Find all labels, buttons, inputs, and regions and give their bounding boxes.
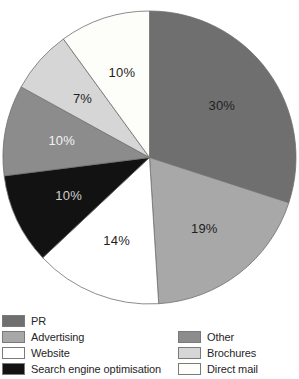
legend-label-direct-mail: Direct mail	[207, 363, 258, 375]
pie-slice-datalabel-search-engine-optimisation: 10%	[55, 188, 82, 203]
legend-item-advertising: Advertising	[2, 331, 161, 343]
pie-slice-datalabel-website: 14%	[103, 233, 130, 248]
legend-swatch-advertising	[2, 331, 25, 343]
legend-swatch-direct-mail	[178, 363, 201, 375]
legend-label-advertising: Advertising	[31, 331, 84, 343]
legend-label-brochures: Brochures	[207, 347, 256, 359]
pie-slice-datalabel-other: 10%	[48, 133, 75, 148]
pie-slice-datalabel-advertising: 19%	[191, 221, 218, 236]
legend-label-website: Website	[31, 347, 70, 359]
chart-canvas: 30%19%14%10%10%7%10% PRAdvertisingWebsit…	[0, 0, 299, 379]
legend-swatch-website	[2, 347, 25, 359]
legend-label-other: Other	[207, 331, 234, 343]
legend-column-right: OtherBrochuresDirect mail	[178, 331, 258, 379]
pie-slice-datalabel-brochures: 7%	[73, 91, 92, 106]
legend-item-other: Other	[178, 331, 258, 343]
legend-item-search-engine-optimisation: Search engine optimisation	[2, 363, 161, 375]
legend-column-left: PRAdvertisingWebsiteSearch engine optimi…	[2, 315, 161, 379]
pie-slice-datalabel-pr: 30%	[208, 98, 235, 113]
pie-slice-datalabel-direct-mail: 10%	[109, 65, 136, 80]
legend-item-direct-mail: Direct mail	[178, 363, 258, 375]
legend-item-brochures: Brochures	[178, 347, 258, 359]
legend-label-search-engine-optimisation: Search engine optimisation	[31, 363, 161, 375]
legend-swatch-search-engine-optimisation	[2, 363, 25, 375]
legend-item-website: Website	[2, 347, 161, 359]
legend-label-pr: PR	[31, 315, 46, 327]
legend-swatch-brochures	[178, 347, 201, 359]
legend-item-pr: PR	[2, 315, 161, 327]
legend-swatch-pr	[2, 315, 25, 327]
legend-swatch-other	[178, 331, 201, 343]
